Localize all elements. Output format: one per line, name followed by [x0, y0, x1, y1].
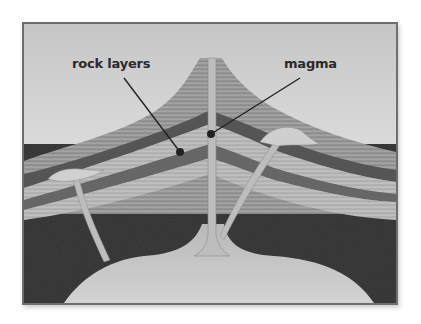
rock-layers-pointer-dot [176, 148, 184, 156]
rock-layers-label: rock layers [72, 56, 150, 71]
magma-pointer-dot [207, 130, 215, 138]
magma-label: magma [284, 56, 337, 71]
